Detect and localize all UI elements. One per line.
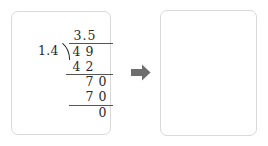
dividend-digit-tens: 4 [71, 46, 82, 59]
dividend-digit-ones: 9 [84, 46, 95, 59]
long-division-diagram: 3 . 5 1.4 4 9 4 2 7 0 7 0 0 [0, 0, 268, 146]
step-second-product-digit-1: 7 [84, 91, 95, 104]
panel-solved-division: 3 . 5 1.4 4 9 4 2 7 0 7 0 0 [11, 11, 111, 135]
subtraction-rule-2 [69, 105, 113, 106]
division-bracket-icon [62, 43, 70, 58]
final-remainder-digit: 0 [97, 107, 108, 120]
step-first-remainder-digit-2: 0 [97, 76, 108, 89]
panel-division-setup: 1.4 4 9 [160, 10, 257, 136]
arrow-right-icon [131, 64, 151, 81]
step-first-remainder-digit-1: 7 [84, 76, 95, 89]
step-first-product-digit-1: 4 [71, 61, 82, 74]
step-first-product-digit-2: 2 [84, 61, 95, 74]
step-second-product-digit-2: 0 [97, 91, 108, 104]
divisor-value: 1.4 [38, 45, 59, 58]
quotient-digit-tenths: 5 [86, 30, 97, 43]
